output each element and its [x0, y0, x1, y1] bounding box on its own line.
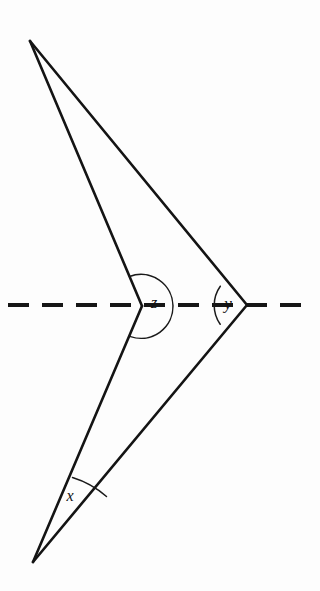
segment-z-vertex-to-bottom-apex: [33, 306, 142, 562]
segment-top-apex-to-y-vertex: [30, 41, 247, 305]
segment-y-vertex-to-bottom-apex: [33, 305, 247, 562]
figure-canvas: x y z: [0, 0, 320, 591]
angle-label-z: z: [150, 294, 158, 311]
geometry-diagram: x y z: [0, 0, 320, 591]
angle-label-x: x: [65, 487, 73, 504]
angle-label-y: y: [222, 294, 232, 313]
segment-top-apex-to-z-vertex: [30, 41, 142, 306]
